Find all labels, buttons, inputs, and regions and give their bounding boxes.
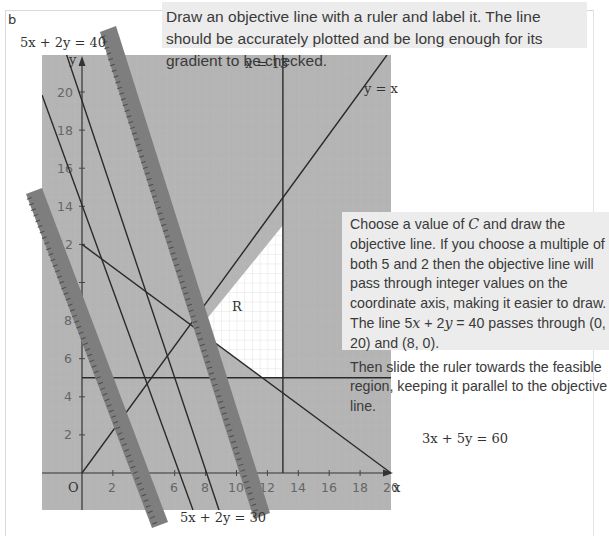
svg-text:20: 20 — [57, 85, 73, 100]
label-origin: O — [68, 480, 79, 495]
label-x-axis: x — [393, 480, 401, 495]
instruction-note-right: Choose a value of C and draw the objecti… — [342, 212, 609, 350]
note-paragraph-2: Then slide the ruler towards the feasibl… — [350, 358, 609, 417]
label-5x2y40: 5x + 2y = 40 — [20, 35, 106, 50]
svg-text:6: 6 — [64, 351, 72, 366]
label-3x5y60: 3x + 5y = 60 — [422, 431, 508, 446]
svg-text:6: 6 — [170, 480, 178, 495]
label-y-eq-x: y = x — [363, 81, 399, 96]
svg-text:2: 2 — [108, 480, 116, 495]
instruction-note-top: Draw an objective line with a ruler and … — [162, 2, 587, 48]
svg-text:16: 16 — [321, 480, 337, 495]
svg-text:4: 4 — [64, 389, 72, 404]
svg-text:10: 10 — [228, 480, 244, 495]
note-paragraph-1: Choose a value of C and draw the objecti… — [350, 215, 609, 354]
label-region-r: R — [232, 299, 243, 314]
label-5x2y30: 5x + 2y = 30 — [180, 510, 266, 525]
label-y-axis: y — [68, 52, 77, 67]
svg-text:14: 14 — [290, 480, 306, 495]
svg-text:18: 18 — [352, 480, 368, 495]
svg-text:8: 8 — [64, 313, 72, 328]
svg-text:2: 2 — [64, 427, 72, 442]
svg-text:18: 18 — [57, 123, 73, 138]
svg-text:14: 14 — [57, 199, 73, 214]
svg-text:8: 8 — [201, 480, 209, 495]
